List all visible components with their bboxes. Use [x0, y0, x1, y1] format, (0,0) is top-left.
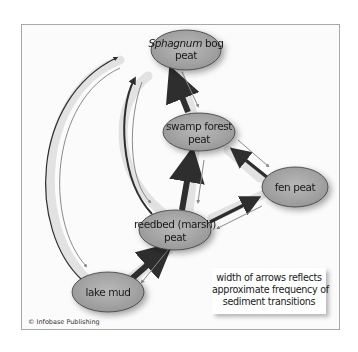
svg-text:Sphagnum bog: Sphagnum bog	[149, 37, 224, 49]
legend-box: width of arrows reflects approximate fre…	[212, 268, 326, 314]
svg-text:peat: peat	[188, 133, 210, 145]
legend-line-2: approximate frequency of	[212, 284, 326, 296]
node-reedbed-marsh-peat: reedbed (marsh) peat	[134, 210, 216, 250]
sphagnum-italic: Sphagnum	[149, 37, 203, 49]
node-fen-peat: fen peat	[262, 167, 328, 207]
copyright-credit: © Infobase Publishing	[28, 318, 100, 326]
svg-text:swamp forest: swamp forest	[166, 120, 232, 132]
svg-text:peat: peat	[175, 49, 197, 61]
legend-line-1: width of arrows reflects	[212, 272, 326, 284]
node-lake-mud: lake mud	[72, 272, 144, 312]
legend-line-3: sediment transitions	[212, 296, 326, 308]
svg-text:peat: peat	[164, 231, 186, 243]
node-sphagnum-bog-peat: Sphagnum bog peat	[149, 30, 224, 70]
node-swamp-forest-peat: swamp forest peat	[163, 113, 235, 151]
arrow-swamp-to-reedbed	[198, 160, 204, 202]
svg-text:fen peat: fen peat	[275, 181, 316, 193]
svg-text:reedbed (marsh): reedbed (marsh)	[134, 218, 216, 230]
svg-text:lake mud: lake mud	[85, 286, 130, 298]
